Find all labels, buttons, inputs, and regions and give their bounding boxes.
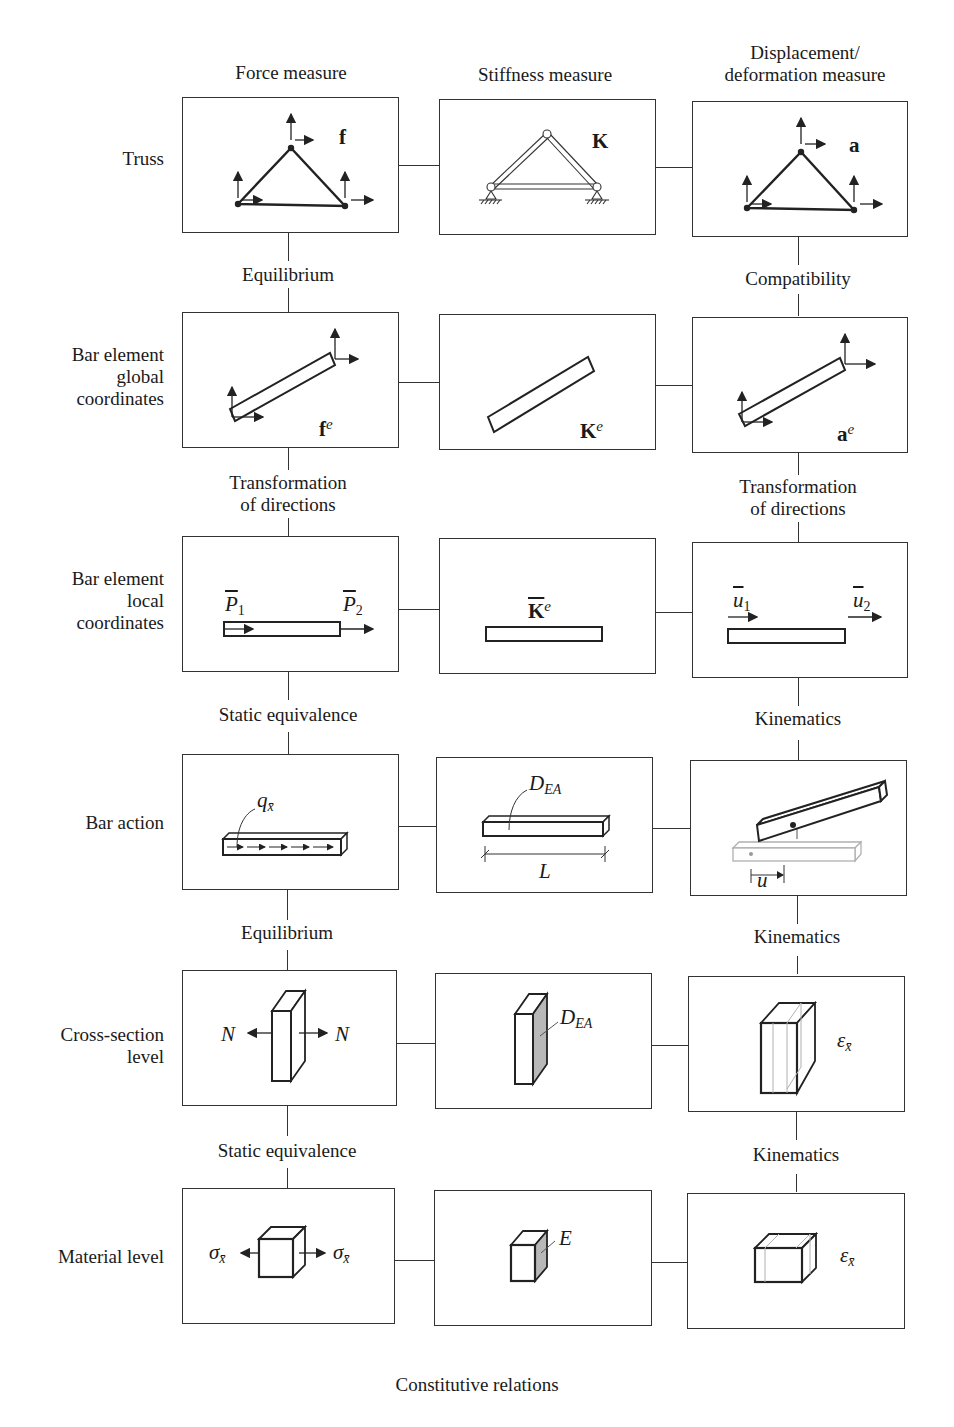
symbol-eps-material: εx̄ [840,1244,855,1273]
symbol-u-axial: u [757,869,768,891]
connector [796,1174,797,1192]
symbol-Ke: Ke [580,415,603,442]
column-header-force: Force measure [186,62,396,84]
truss-force-figure [183,98,400,234]
connector [395,1260,434,1261]
footer-constitutive-relations: Constitutive relations [0,1374,954,1396]
symbol-K: K [592,130,608,152]
box-material-displacement: εx̄ [687,1193,905,1329]
connector [287,1106,288,1136]
symbol-DEA-section: DEA [560,1006,592,1035]
connector [288,732,289,754]
symbol-ae: ae [837,418,854,445]
symbol-f: f [339,126,346,148]
connector [399,382,439,383]
cross-section-force-figure [183,971,398,1107]
connector [288,233,289,261]
symbol-sigma-right: σx̄ [333,1241,350,1270]
bar-global-displacement-figure [693,318,909,454]
box-bar-local-displacement: u1 u2 [692,542,908,678]
connector [656,385,692,386]
connector [288,518,289,536]
box-truss-stiffness: K [439,99,656,235]
box-bar-local-force: P1 P2 [182,536,399,672]
row-label-bar-local: Bar element local coordinates [4,568,164,634]
symbol-P2: P2 [343,593,363,622]
box-bar-action-displacement: u [690,760,907,896]
symbol-u1: u1 [733,589,751,618]
box-cross-section-force: N N [182,970,397,1106]
box-bar-action-stiffness: DEA L [436,757,653,893]
bar-local-displacement-figure [693,543,909,679]
connector [798,740,799,760]
connector [287,890,288,920]
relation-kinematics-3: Kinematics [696,1144,896,1166]
connector [798,294,799,316]
connector [288,288,289,312]
bar-action-displacement-figure [691,761,908,897]
box-cross-section-displacement: εx̄ [688,976,905,1112]
symbol-fe: fe [319,413,333,440]
symbol-E: E [559,1227,572,1249]
symbol-u2: u2 [853,589,871,618]
symbol-P1: P1 [225,593,245,622]
connector [399,826,436,827]
box-bar-global-stiffness: Ke [439,314,656,450]
material-displacement-figure [688,1194,906,1330]
row-label-bar-global: Bar element global coordinates [4,344,164,410]
symbol-DEA-bar: DEA [529,772,561,801]
cross-section-displacement-figure [689,977,906,1113]
connector [287,950,288,970]
relation-equilibrium-1: Equilibrium [188,264,388,286]
relation-kinematics-2: Kinematics [697,926,897,948]
box-truss-displacement: a [692,101,908,237]
column-header-displacement: Displacement/ deformation measure [690,42,920,86]
symbol-N-right: N [335,1023,349,1045]
connector [798,522,799,542]
box-bar-local-stiffness: Ke [439,538,656,674]
column-header-stiffness: Stiffness measure [440,64,650,86]
symbol-a: a [849,134,860,156]
relation-transformation-force: Transformation of directions [188,472,388,516]
connector [399,609,439,610]
connector [656,167,692,168]
connector [797,956,798,974]
row-label-truss: Truss [4,148,164,170]
connector [797,896,798,924]
symbol-L: L [539,860,551,882]
relation-compatibility: Compatibility [698,268,898,290]
connector [798,237,799,265]
relation-static-equivalence-1: Static equivalence [178,704,398,726]
bar-action-force-figure [183,755,400,891]
truss-stiffness-figure [440,100,657,236]
connector [796,1112,797,1140]
bar-local-force-figure [183,537,400,673]
box-material-force: σx̄ σx̄ [182,1188,395,1324]
symbol-eps-section: εx̄ [837,1029,852,1058]
truss-displacement-figure [693,102,909,238]
symbol-N-left: N [221,1023,235,1045]
bar-global-stiffness-figure [440,315,657,451]
connector [656,612,692,613]
box-material-stiffness: E [434,1190,652,1326]
connector [399,165,439,166]
symbol-qx: qx̄ [257,789,274,818]
row-label-bar-action: Bar action [4,812,164,834]
box-bar-global-displacement: ae [692,317,908,453]
relation-equilibrium-2: Equilibrium [187,922,387,944]
connector [652,1262,687,1263]
relation-transformation-displacement: Transformation of directions [698,476,898,520]
relation-kinematics-1: Kinematics [698,708,898,730]
connector [798,453,799,475]
relation-static-equivalence-2: Static equivalence [177,1140,397,1162]
bar-global-force-figure [183,313,400,449]
connector [288,448,289,470]
symbol-Kbar-e: Ke [528,595,551,622]
row-label-material: Material level [4,1246,164,1268]
symbol-sigma-left: σx̄ [209,1241,226,1270]
material-stiffness-figure [435,1191,653,1327]
box-truss-force: f [182,97,399,233]
box-bar-action-force: qx̄ [182,754,399,890]
connector [288,672,289,700]
connector [287,1168,288,1188]
